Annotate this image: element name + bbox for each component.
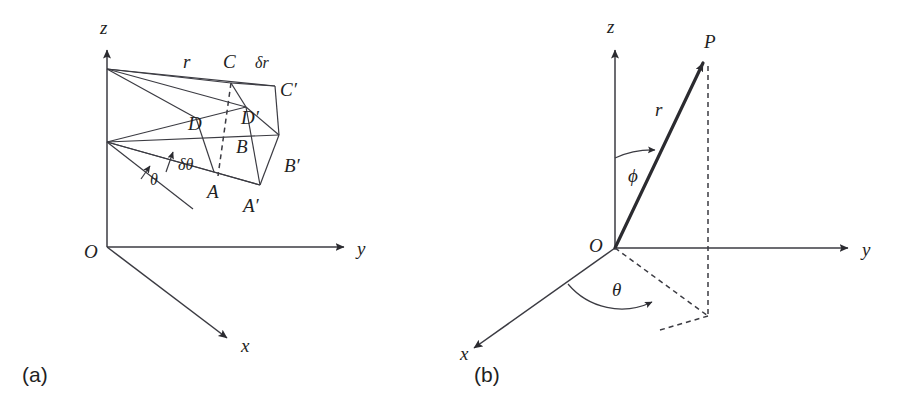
panel-a-caption: (a) [22,363,48,386]
panel-a-vertex-C-prime-label: C′ [280,79,298,100]
panel-a-vertex-D-label: D [187,113,202,134]
panel-a-x-axis-label: x [240,335,250,356]
panel-a-theta-arrow [141,166,150,179]
panel-b-radius-vector [615,63,703,248]
panel-a-delta-theta-label: δθ [178,156,193,173]
panel-b-r-label: r [655,99,663,120]
panel-a-delta-theta-arrow [166,152,173,172]
panel-a-vertex-A-prime-label: A′ [241,195,260,216]
panel-a-vertex-C-label: C [223,51,236,72]
panel-a-hidden-edge [218,83,231,176]
panel-a-vertex-A-label: A [205,181,219,202]
panel-b-y-axis-label: y [860,239,871,260]
panel-a-vertex-B-label: B [236,136,248,157]
panel-a-x-axis [107,247,227,338]
spherical-coordinates-figure: z y x O [0,0,916,405]
panel-a-y-axis-label: y [355,238,366,259]
figure-root: z y x O [0,0,916,405]
panel-a-theta-label: θ [150,171,158,188]
panel-a-r-label: r [183,51,191,72]
panel-b-origin-label: O [589,235,603,256]
panel-a-vertex-D-prime-label: D′ [240,107,260,128]
panel-a-z-axis-label: z [99,17,108,38]
panel-b-x-axis-label: x [459,343,469,364]
panel-a-wedge-bottom-face [214,172,260,185]
panel-b-z-axis-label: z [606,16,615,37]
panel-b-caption: (b) [474,363,500,386]
panel-a-origin-label: O [84,241,98,262]
panel-b-theta-arc [568,284,652,309]
panel-a-delta-r-label: δr [255,54,269,71]
panel-b-theta-label: θ [612,279,621,300]
panel-b: z y x O r P [459,16,871,386]
panel-b-x-axis [474,248,615,348]
panel-a: z y x O [22,17,366,386]
panel-b-point-P-label: P [703,31,716,52]
panel-b-ground-projection-lines [615,248,708,330]
panel-a-vertex-B-prime-label: B′ [284,155,301,176]
panel-b-phi-label: ϕ [628,165,638,186]
panel-b-phi-arc [615,150,655,158]
